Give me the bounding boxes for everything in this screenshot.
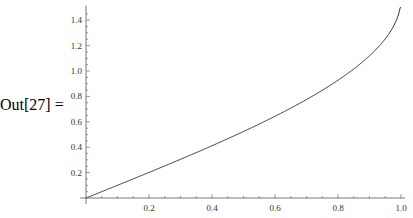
x-tick-label: 0.8 — [332, 203, 344, 213]
y-tick-label: 0.8 — [71, 91, 83, 101]
y-tick-label: 0.4 — [71, 142, 83, 152]
curve-line — [86, 8, 401, 199]
y-tick-label: 0.2 — [71, 168, 82, 178]
x-tick-label: 1.0 — [395, 203, 407, 213]
y-tick-label: 1.0 — [71, 66, 83, 76]
y-tick-label: 1.4 — [71, 15, 83, 25]
y-tick-label: 1.2 — [71, 41, 82, 51]
y-tick-label: 0.6 — [71, 117, 83, 127]
x-tick-label: 0.6 — [269, 203, 281, 213]
x-tick-label: 0.2 — [143, 203, 154, 213]
axes: 0.20.40.60.81.00.20.40.60.81.01.21.4 — [71, 6, 407, 214]
x-tick-label: 0.4 — [206, 203, 218, 213]
plot: 0.20.40.60.81.00.20.40.60.81.01.21.4 — [0, 0, 413, 218]
